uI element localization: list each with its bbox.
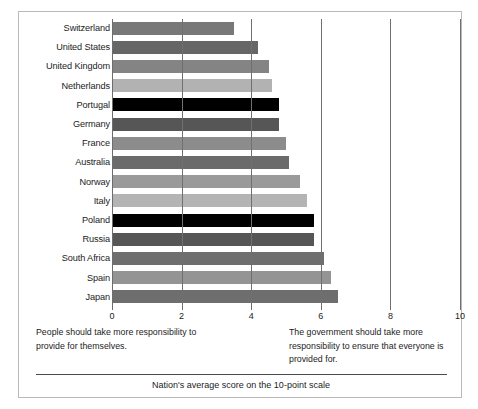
bar-row bbox=[112, 269, 460, 287]
y-axis-label: Norway bbox=[19, 173, 110, 191]
x-axis-caption: Nation's average score on the 10-point s… bbox=[19, 380, 463, 390]
scale-annotations: People should take more responsibility t… bbox=[19, 326, 463, 371]
x-tick-label: 4 bbox=[249, 311, 254, 321]
x-tick-label: 6 bbox=[318, 311, 323, 321]
bar-row bbox=[112, 192, 460, 210]
y-axis-label: Australia bbox=[19, 153, 110, 171]
y-axis-label: Poland bbox=[19, 211, 110, 229]
y-axis-label: Switzerland bbox=[19, 19, 110, 37]
gridline-10 bbox=[460, 19, 461, 307]
bar bbox=[112, 137, 286, 150]
gridline-8 bbox=[390, 19, 391, 307]
tick-mark-6 bbox=[321, 306, 322, 310]
gridline-0 bbox=[112, 19, 113, 307]
bar-row bbox=[112, 57, 460, 75]
bar bbox=[112, 41, 258, 54]
tick-mark-4 bbox=[251, 306, 252, 310]
bar bbox=[112, 156, 289, 169]
bar bbox=[112, 22, 234, 35]
y-axis-category-labels: SwitzerlandUnited StatesUnited KingdomNe… bbox=[19, 19, 110, 307]
bar-row bbox=[112, 249, 460, 267]
bar bbox=[112, 252, 324, 265]
y-axis-label: United Kingdom bbox=[19, 57, 110, 75]
bar-row bbox=[112, 288, 460, 306]
plot-area: SwitzerlandUnited StatesUnited KingdomNe… bbox=[19, 12, 463, 313]
bar-row bbox=[112, 173, 460, 191]
gridline-6 bbox=[321, 19, 322, 307]
y-axis-label: Spain bbox=[19, 269, 110, 287]
bar bbox=[112, 60, 269, 73]
tick-mark-10 bbox=[460, 306, 461, 310]
bar bbox=[112, 233, 314, 246]
y-axis-label: Germany bbox=[19, 115, 110, 133]
tick-mark-2 bbox=[182, 306, 183, 310]
annotation-left: People should take more responsibility t… bbox=[36, 326, 226, 353]
y-axis-label: Italy bbox=[19, 192, 110, 210]
y-axis-label: South Africa bbox=[19, 249, 110, 267]
caption-divider bbox=[36, 374, 447, 375]
bar bbox=[112, 118, 279, 131]
x-tick-label: 10 bbox=[455, 311, 465, 321]
annotation-right: The government should take more responsi… bbox=[289, 326, 449, 367]
bar bbox=[112, 79, 272, 92]
bar bbox=[112, 290, 338, 303]
x-tick-label: 0 bbox=[109, 311, 114, 321]
bar-row bbox=[112, 96, 460, 114]
x-axis-tick-labels: 0246810 bbox=[112, 311, 460, 327]
gridline-4 bbox=[251, 19, 252, 307]
bar-row bbox=[112, 153, 460, 171]
y-axis-label: Russia bbox=[19, 230, 110, 248]
bar bbox=[112, 98, 279, 111]
bar-row bbox=[112, 115, 460, 133]
y-axis-label: France bbox=[19, 134, 110, 152]
x-tick-label: 8 bbox=[388, 311, 393, 321]
bar bbox=[112, 194, 307, 207]
y-axis-label: Japan bbox=[19, 288, 110, 306]
x-tick-label: 2 bbox=[179, 311, 184, 321]
bar-row bbox=[112, 19, 460, 37]
tick-mark-0 bbox=[112, 306, 113, 310]
bar-row bbox=[112, 134, 460, 152]
bar-row bbox=[112, 77, 460, 95]
chart-figure: SwitzerlandUnited StatesUnited KingdomNe… bbox=[18, 11, 462, 398]
bar-row bbox=[112, 230, 460, 248]
bar-row bbox=[112, 38, 460, 56]
bars-container bbox=[112, 19, 460, 307]
y-axis-label: United States bbox=[19, 38, 110, 56]
bar bbox=[112, 214, 314, 227]
bar bbox=[112, 271, 331, 284]
bar bbox=[112, 175, 300, 188]
y-axis-label: Netherlands bbox=[19, 77, 110, 95]
tick-mark-8 bbox=[390, 306, 391, 310]
bar-row bbox=[112, 211, 460, 229]
y-axis-label: Portugal bbox=[19, 96, 110, 114]
gridline-2 bbox=[182, 19, 183, 307]
